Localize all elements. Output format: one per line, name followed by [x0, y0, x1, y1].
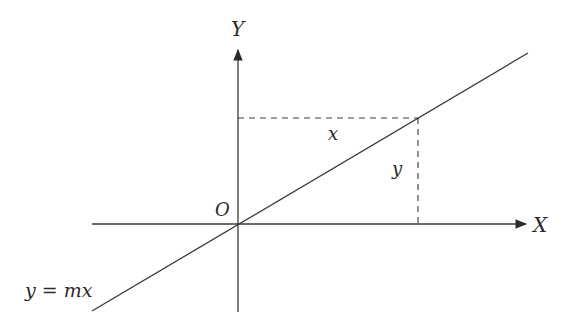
equation-label: y = mx	[24, 279, 93, 301]
y-axis-label: Y	[231, 17, 246, 41]
origin-label: O	[215, 199, 230, 220]
diagram-canvas: Y X O x y y = mx	[0, 0, 577, 334]
x-axis-label: X	[531, 213, 548, 237]
line-y-equals-mx	[92, 53, 528, 311]
vertical-distance-label: y	[391, 158, 403, 179]
horizontal-distance-label: x	[328, 123, 338, 144]
